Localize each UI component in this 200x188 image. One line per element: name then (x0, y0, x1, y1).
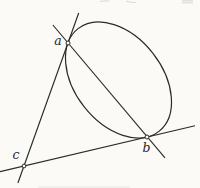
point-label-a: a (54, 33, 61, 48)
tangent-line-ca (18, 13, 79, 183)
conic-ellipse (44, 2, 193, 159)
point-label-b: b (142, 140, 150, 155)
tangent-line-cb (0, 126, 195, 172)
point-marker-a (66, 41, 70, 45)
point-label-c: c (12, 147, 19, 162)
point-marker-c (22, 164, 26, 168)
geometry-figure: a b c (0, 0, 200, 188)
cropped-print-artifact (100, 1, 109, 2)
point-marker-b (145, 135, 149, 139)
cropped-print-artifact (182, 1, 193, 3)
cropped-print-artifact (126, 1, 136, 2)
figure-canvas: a b c (0, 0, 200, 188)
